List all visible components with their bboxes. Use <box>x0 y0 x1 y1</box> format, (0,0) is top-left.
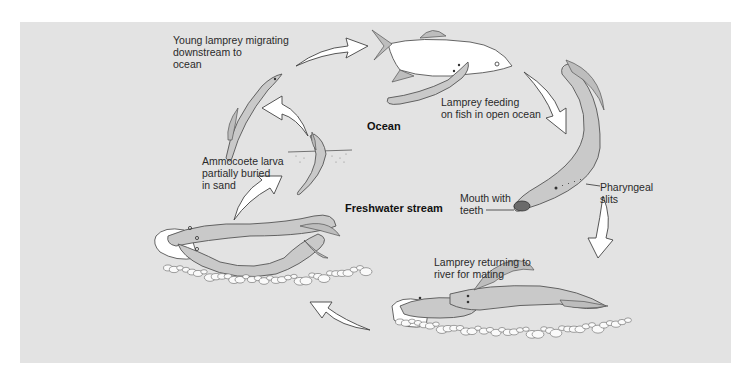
pebble <box>300 277 312 285</box>
pebble <box>625 318 632 323</box>
annotation-mouth: Mouth with teeth <box>460 192 511 216</box>
pebble <box>523 327 529 331</box>
label-young-migrating: Young lamprey migrating downstream to oc… <box>173 34 289 70</box>
host-fish-illustration <box>372 30 512 82</box>
gravel-nest-right <box>396 318 632 338</box>
label-feeding: Lamprey feeding on fish in open ocean <box>441 96 541 120</box>
pebble <box>532 330 544 338</box>
zone-ocean-label: Ocean <box>367 120 401 132</box>
annotation-pharyngeal-slits: Pharyngeal slits <box>600 181 653 205</box>
slits-leader-line <box>586 184 600 186</box>
pebble <box>516 328 523 333</box>
label-returning: Lamprey returning to river for mating <box>434 256 531 280</box>
pebble <box>360 268 372 276</box>
pebble <box>433 322 439 326</box>
pebble <box>291 274 297 278</box>
arrow-larva-to-young <box>262 96 308 136</box>
pebble <box>318 275 330 283</box>
arrow-returning-to-spawning <box>310 302 370 330</box>
arrow-young-to-feeding <box>296 38 368 66</box>
pebble <box>201 270 207 274</box>
adult-lamprey-closeup-illustration <box>514 60 604 211</box>
arrow-adult-to-returning <box>588 196 613 258</box>
young-lamprey-illustration <box>226 74 282 161</box>
label-larva: Ammocoete larva partially buried in sand <box>202 155 284 191</box>
larva-illustration <box>288 132 352 195</box>
zone-freshwater-label: Freshwater stream <box>345 202 443 214</box>
pebble <box>284 275 291 280</box>
